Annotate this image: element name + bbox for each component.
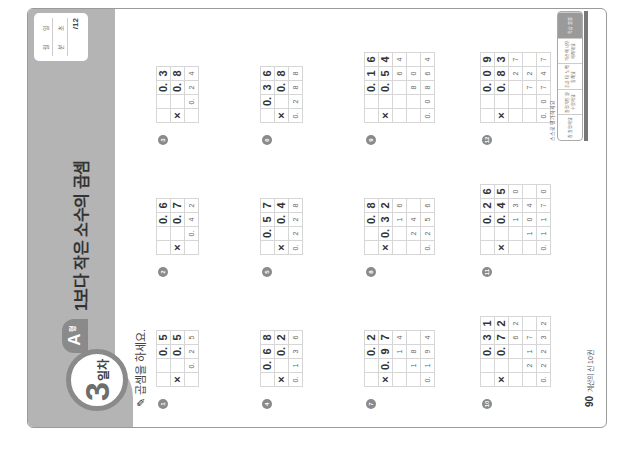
answer-cell[interactable]: 3 xyxy=(289,345,303,359)
answer-cell[interactable]: 0. xyxy=(185,95,199,109)
answer-cell[interactable]: 2 xyxy=(509,67,523,81)
answer-cell[interactable]: 2 xyxy=(421,227,435,241)
answer-cell[interactable]: 0. xyxy=(289,109,303,123)
answer-cell[interactable]: 3 xyxy=(509,199,523,213)
answer-cell[interactable]: 4 xyxy=(421,53,435,67)
answer-cell[interactable]: 0. xyxy=(537,241,551,255)
answer-cell[interactable]: 1 xyxy=(393,345,407,359)
answer-cell[interactable]: 6 xyxy=(421,67,435,81)
answer-cell[interactable]: 4 xyxy=(185,67,199,81)
answer-cell[interactable] xyxy=(393,109,407,123)
answer-cell[interactable]: 0 xyxy=(509,185,523,199)
answer-cell[interactable] xyxy=(185,241,199,255)
answer-cell[interactable]: 2 xyxy=(185,345,199,359)
answer-cell[interactable]: 0 xyxy=(523,213,537,227)
answer-cell[interactable]: 8 xyxy=(407,345,421,359)
answer-cell[interactable] xyxy=(407,331,421,345)
answer-cell[interactable]: 0. xyxy=(289,241,303,255)
answer-cell[interactable]: 7 xyxy=(537,199,551,213)
answer-cell[interactable] xyxy=(509,81,523,95)
answer-cell[interactable]: 2 xyxy=(523,67,537,81)
rating-option[interactable]: 계산이 너무 어려워요 xyxy=(558,38,582,64)
answer-cell[interactable]: 2 xyxy=(289,213,303,227)
answer-cell[interactable] xyxy=(509,373,523,387)
answer-cell[interactable] xyxy=(509,227,523,241)
answer-cell[interactable] xyxy=(523,53,537,67)
answer-cell[interactable]: 2 xyxy=(289,227,303,241)
answer-cell[interactable]: 0. xyxy=(421,373,435,387)
answer-cell[interactable] xyxy=(509,241,523,255)
answer-cell[interactable] xyxy=(407,53,421,67)
answer-cell[interactable]: 1 xyxy=(393,213,407,227)
answer-cell[interactable]: 3 xyxy=(537,331,551,345)
answer-cell[interactable]: 4 xyxy=(407,213,421,227)
answer-cell[interactable] xyxy=(393,241,407,255)
answer-cell[interactable]: 0 xyxy=(537,185,551,199)
date-row[interactable]: 월 일 xyxy=(38,18,53,56)
answer-cell[interactable]: 4 xyxy=(523,199,537,213)
answer-cell[interactable] xyxy=(407,109,421,123)
answer-cell[interactable]: 7 xyxy=(523,331,537,345)
rating-option[interactable]: 참 잘했어요 xyxy=(558,114,582,140)
answer-cell[interactable] xyxy=(509,109,523,123)
answer-cell[interactable]: 6 xyxy=(393,199,407,213)
answer-cell[interactable]: 6 xyxy=(393,67,407,81)
answer-cell[interactable]: 2 xyxy=(537,345,551,359)
answer-cell[interactable]: 4 xyxy=(185,213,199,227)
answer-cell[interactable]: 0 xyxy=(421,95,435,109)
answer-cell[interactable]: 7 xyxy=(509,53,523,67)
answer-cell[interactable]: 6 xyxy=(509,331,523,345)
answer-cell[interactable]: 1 xyxy=(289,359,303,373)
answer-cell[interactable] xyxy=(509,345,523,359)
answer-cell[interactable]: 1 xyxy=(523,345,537,359)
answer-cell[interactable] xyxy=(185,373,199,387)
answer-cell[interactable]: 8 xyxy=(407,81,421,95)
answer-cell[interactable]: 2 xyxy=(185,199,199,213)
answer-cell[interactable] xyxy=(393,373,407,387)
answer-cell[interactable] xyxy=(509,359,523,373)
answer-cell[interactable]: 7 xyxy=(523,81,537,95)
answer-cell[interactable] xyxy=(523,241,537,255)
answer-cell[interactable] xyxy=(509,95,523,109)
answer-cell[interactable]: 0. xyxy=(421,109,435,123)
answer-cell[interactable] xyxy=(523,185,537,199)
answer-cell[interactable]: 6 xyxy=(421,199,435,213)
answer-cell[interactable]: 5 xyxy=(185,331,199,345)
answer-cell[interactable]: 0. xyxy=(185,359,199,373)
answer-cell[interactable] xyxy=(393,95,407,109)
answer-cell[interactable]: 0 xyxy=(407,67,421,81)
answer-cell[interactable]: 8 xyxy=(289,199,303,213)
answer-cell[interactable]: 1 xyxy=(537,213,551,227)
score-row[interactable]: /12 xyxy=(68,18,82,56)
answer-cell[interactable]: 1 xyxy=(509,213,523,227)
rating-option[interactable]: 조금 더 노력 할래요 xyxy=(558,63,582,89)
answer-cell[interactable]: 2 xyxy=(185,81,199,95)
answer-cell[interactable]: 1 xyxy=(407,359,421,373)
answer-cell[interactable] xyxy=(393,227,407,241)
answer-cell[interactable]: 2 xyxy=(537,317,551,331)
answer-cell[interactable]: 2 xyxy=(509,317,523,331)
answer-cell[interactable] xyxy=(393,81,407,95)
answer-cell[interactable]: 5 xyxy=(421,213,435,227)
answer-cell[interactable] xyxy=(407,241,421,255)
answer-cell[interactable] xyxy=(407,199,421,213)
answer-cell[interactable]: 2 xyxy=(289,95,303,109)
answer-cell[interactable]: 4 xyxy=(393,331,407,345)
answer-cell[interactable] xyxy=(523,373,537,387)
answer-cell[interactable]: 0. xyxy=(185,227,199,241)
answer-cell[interactable] xyxy=(407,373,421,387)
answer-cell[interactable]: 2 xyxy=(407,227,421,241)
answer-cell[interactable] xyxy=(523,317,537,331)
rating-option-selected[interactable]: 학습 일일 xyxy=(558,12,582,38)
answer-cell[interactable]: 6 xyxy=(289,331,303,345)
answer-cell[interactable]: 0. xyxy=(537,373,551,387)
answer-cell[interactable]: 2 xyxy=(523,359,537,373)
answer-cell[interactable] xyxy=(185,109,199,123)
answer-cell[interactable]: 0. xyxy=(289,373,303,387)
answer-cell[interactable]: 8 xyxy=(289,81,303,95)
answer-cell[interactable] xyxy=(523,109,537,123)
answer-cell[interactable]: 8 xyxy=(289,67,303,81)
answer-cell[interactable]: 0. xyxy=(421,241,435,255)
answer-cell[interactable]: 1 xyxy=(421,359,435,373)
answer-cell[interactable]: 2 xyxy=(537,359,551,373)
